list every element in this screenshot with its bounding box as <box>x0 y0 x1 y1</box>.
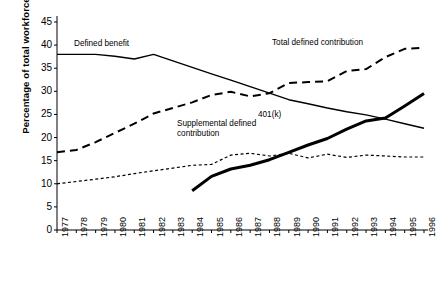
annotation-401k: 401(k) <box>258 110 281 120</box>
x-tick-label: 1985 <box>216 217 225 237</box>
annotation-line: 401(k) <box>258 110 281 120</box>
x-tick-label: 1980 <box>119 217 128 237</box>
x-tick-label: 1993 <box>370 217 379 237</box>
x-tick-label: 1994 <box>389 217 398 237</box>
annotation-line: Supplemental defined <box>177 119 256 129</box>
x-tick-label: 1986 <box>235 217 244 237</box>
x-tick-label: 1982 <box>158 217 167 237</box>
x-tick-label: 1978 <box>80 217 89 237</box>
x-tick-label: 1979 <box>100 217 109 237</box>
x-tick-label: 1990 <box>312 217 321 237</box>
x-tick-label: 1983 <box>177 217 186 237</box>
annotation-line: Total defined contribution <box>272 38 363 48</box>
x-tick-label: 1992 <box>351 217 360 237</box>
annotation-supplemental-defined-contribution: Supplemental definedcontribution <box>177 119 256 138</box>
x-tick-label: 1991 <box>331 217 340 237</box>
annotation-total-defined-contribution: Total defined contribution <box>272 38 363 48</box>
x-tick-label: 1988 <box>273 217 282 237</box>
x-tick-label: 1989 <box>293 217 302 237</box>
x-tick-label: 1984 <box>196 217 205 237</box>
x-tick-label: 1996 <box>428 217 437 237</box>
x-tick-label: 1981 <box>138 217 147 237</box>
x-tick-label: 1995 <box>409 217 418 237</box>
x-tick-label: 1987 <box>254 217 263 237</box>
series-line <box>192 94 424 191</box>
annotation-line: contribution <box>177 129 256 139</box>
annotation-defined-benefit: Defined benefit <box>74 39 129 49</box>
x-tick-label: 1977 <box>61 217 70 237</box>
series-line <box>57 54 424 128</box>
annotation-line: Defined benefit <box>74 39 129 49</box>
